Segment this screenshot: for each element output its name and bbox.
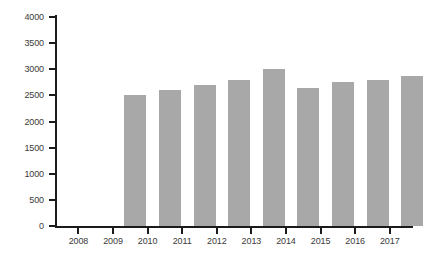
- y-axis-tick: [49, 42, 56, 44]
- x-axis-tick: [216, 228, 218, 234]
- y-axis-tick: [49, 94, 56, 96]
- bar: [401, 76, 423, 226]
- y-axis-tick-label: 500: [4, 195, 44, 205]
- y-axis-tick-label: 0: [4, 221, 44, 231]
- y-axis-tick-label: 2500: [4, 90, 44, 100]
- x-axis-tick: [389, 228, 391, 234]
- y-axis-tick: [49, 121, 56, 123]
- x-axis-tick: [320, 228, 322, 234]
- plot-area: [57, 17, 415, 226]
- x-axis-tick: [147, 228, 149, 234]
- y-axis-tick-label: 1500: [4, 143, 44, 153]
- bar: [159, 90, 181, 226]
- y-axis-tick: [49, 173, 56, 175]
- bar: [332, 82, 354, 226]
- x-axis-tick: [285, 228, 287, 234]
- y-axis-tick-label: 3000: [4, 64, 44, 74]
- bar-chart: 05001000150020002500300035004000 2008200…: [0, 0, 428, 261]
- bar: [367, 80, 389, 226]
- y-axis-tick: [49, 147, 56, 149]
- y-axis-tick-label: 3500: [4, 38, 44, 48]
- bar: [297, 88, 319, 226]
- bar: [263, 69, 285, 226]
- x-axis-tick: [181, 228, 183, 234]
- y-axis-tick-label: 4000: [4, 12, 44, 22]
- x-axis-tick: [77, 228, 79, 234]
- x-axis-tick: [112, 228, 114, 234]
- x-axis-tick: [250, 228, 252, 234]
- y-axis-tick-label: 1000: [4, 169, 44, 179]
- x-axis-line: [55, 226, 413, 228]
- y-axis-tick: [49, 16, 56, 18]
- x-axis-tick-label: 2017: [369, 236, 411, 246]
- bar: [124, 95, 146, 226]
- bar: [194, 85, 216, 226]
- x-axis-tick: [354, 228, 356, 234]
- bar: [228, 80, 250, 226]
- y-axis-tick: [49, 199, 56, 201]
- y-axis-tick-label: 2000: [4, 117, 44, 127]
- y-axis-tick: [49, 225, 56, 227]
- y-axis-tick: [49, 68, 56, 70]
